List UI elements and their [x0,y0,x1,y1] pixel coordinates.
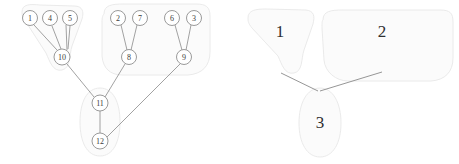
graph-node-3[interactable]: 3 [187,11,202,26]
node-label: 2 [116,14,120,23]
node-label: 4 [48,14,52,23]
figure-canvas: 1 4 5 2 7 6 3 [0,0,459,164]
node-label: 6 [170,14,174,23]
supernode-label-1: 1 [276,22,285,41]
graph-node-10[interactable]: 10 [54,49,70,65]
graph-node-2[interactable]: 2 [111,11,126,26]
supernode-blob-2 [322,10,453,81]
node-label: 1 [28,14,32,23]
supernode-label-2: 2 [378,22,387,41]
supernode-blob-1 [248,9,314,73]
graph-node-9[interactable]: 9 [177,50,192,65]
edge-10-11 [67,64,94,97]
graph-node-4[interactable]: 4 [43,11,58,26]
node-label: 7 [138,14,142,23]
node-label: 11 [96,99,104,108]
node-label: 10 [58,53,66,62]
supernode-label-3: 3 [316,113,325,132]
graph-node-5[interactable]: 5 [63,11,78,26]
node-label: 5 [68,14,72,23]
node-label: 9 [182,53,186,62]
node-label: 3 [192,14,196,23]
graph-node-7[interactable]: 7 [133,11,148,26]
clustering-figure: 1 4 5 2 7 6 3 [0,0,459,164]
graph-node-11[interactable]: 11 [92,95,108,111]
graph-node-6[interactable]: 6 [165,11,180,26]
node-label: 12 [96,137,104,146]
graph-node-8[interactable]: 8 [122,50,137,65]
graph-node-12[interactable]: 12 [92,133,108,149]
left-cluster-blobs [22,4,210,156]
graph-node-1[interactable]: 1 [23,11,38,26]
superedge-1-3 [281,73,318,91]
node-label: 8 [127,53,131,62]
